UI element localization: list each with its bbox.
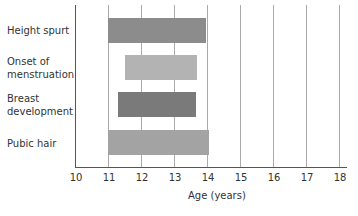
bar-breast-development bbox=[118, 92, 196, 117]
gridline-17 bbox=[306, 5, 307, 167]
category-label-height-spurt: Height spurt bbox=[7, 24, 69, 37]
bar-onset-of-menstruation bbox=[125, 55, 197, 80]
bar-height-spurt bbox=[108, 18, 206, 43]
category-label-onset-line2: menstruation bbox=[7, 68, 74, 81]
x-axis-title: Age (years) bbox=[188, 190, 246, 201]
x-tick-10: 10 bbox=[66, 172, 86, 183]
x-tick-18: 18 bbox=[330, 172, 350, 183]
category-label-onset-line1: Onset of bbox=[7, 55, 49, 68]
category-label-breast-line1: Breast bbox=[7, 92, 39, 105]
gridline-18 bbox=[339, 5, 340, 167]
y-axis-line bbox=[75, 5, 76, 168]
x-tick-15: 15 bbox=[231, 172, 251, 183]
gridline-15 bbox=[240, 5, 241, 167]
x-tick-17: 17 bbox=[297, 172, 317, 183]
x-tick-12: 12 bbox=[132, 172, 152, 183]
gridline-16 bbox=[273, 5, 274, 167]
bar-pubic-hair bbox=[108, 130, 209, 155]
category-label-pubic-hair: Pubic hair bbox=[7, 137, 56, 150]
x-tick-16: 16 bbox=[264, 172, 284, 183]
x-tick-11: 11 bbox=[99, 172, 119, 183]
category-label-breast-line2: development bbox=[7, 105, 73, 118]
x-tick-13: 13 bbox=[165, 172, 185, 183]
x-tick-14: 14 bbox=[198, 172, 218, 183]
x-axis-line bbox=[75, 167, 347, 168]
